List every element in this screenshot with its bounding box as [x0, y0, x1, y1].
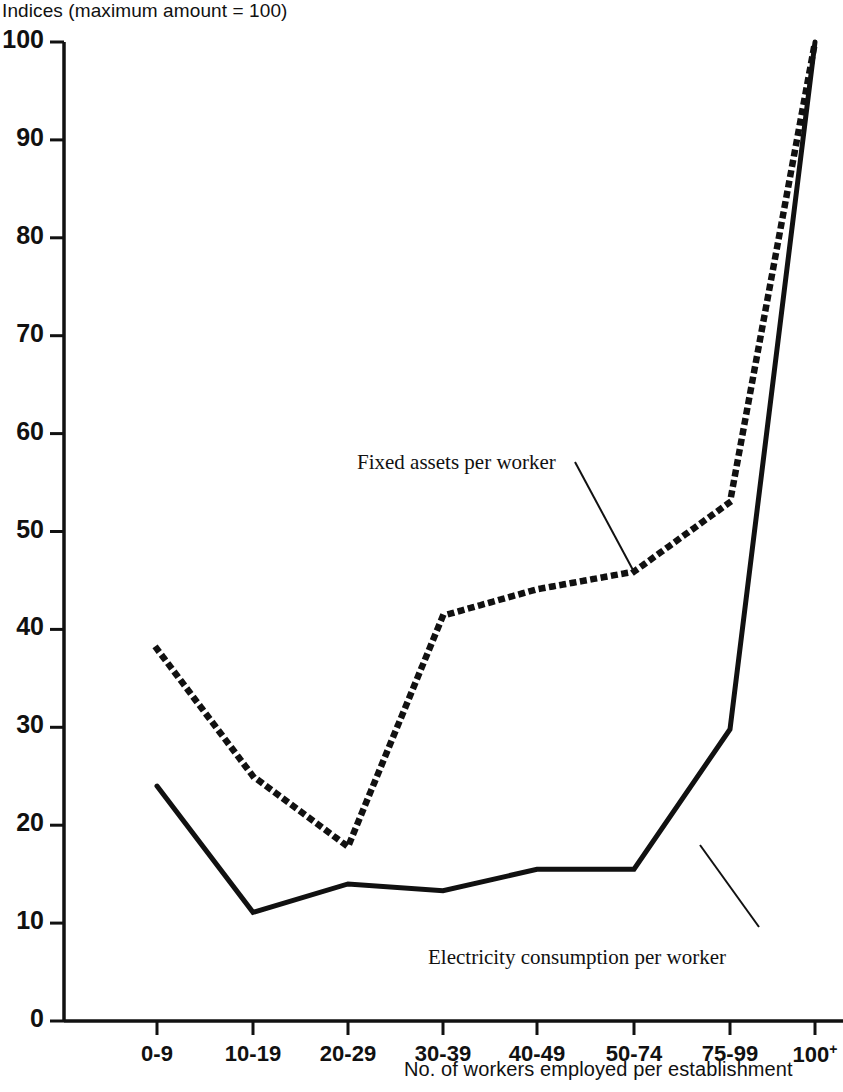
plot-area — [0, 0, 843, 1092]
x-axis-tick-label-superscript: + — [829, 1041, 837, 1057]
annotation-leader-lines — [575, 462, 759, 927]
y-axis-tick-label: 90 — [16, 123, 44, 152]
y-axis-tick-label: 100 — [2, 25, 44, 54]
x-axis-title: No. of workers employed per establishmen… — [404, 1058, 793, 1081]
axis-lines — [64, 42, 843, 1021]
y-axis-tick-label: 10 — [16, 906, 44, 935]
series-annotation-label: Fixed assets per worker — [357, 450, 556, 475]
y-axis-tick-label: 20 — [16, 808, 44, 837]
y-axis-tick-label: 60 — [16, 417, 44, 446]
y-axis-tick-label: 70 — [16, 319, 44, 348]
y-axis-tick-label: 50 — [16, 515, 44, 544]
annotation-leader-line — [575, 462, 633, 570]
y-axis-tick-label: 80 — [16, 221, 44, 250]
chart-figure: Indices (maximum amount = 100) 010203040… — [0, 0, 843, 1092]
y-axis-tick-label: 40 — [16, 612, 44, 641]
x-axis-ticks — [157, 1021, 815, 1035]
series-annotation-label: Electricity consumption per worker — [428, 945, 726, 970]
data-series-group — [157, 42, 815, 912]
annotation-leader-line — [700, 845, 759, 927]
y-axis-ticks — [50, 42, 64, 1021]
y-axis-tick-label: 0 — [30, 1004, 44, 1033]
data-series-line — [157, 42, 815, 847]
y-axis-tick-label: 30 — [16, 710, 44, 739]
